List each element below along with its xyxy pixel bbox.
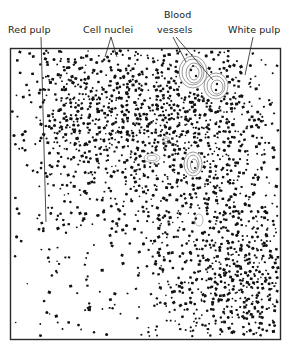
leader-red-pulp [41,37,46,222]
blood-vessel-large-1 [179,56,207,88]
tissue-illustration [0,0,295,348]
blood-vessel-medium [184,152,202,176]
blood-vessel-large-2 [204,73,228,99]
leader-white-pulp [245,37,253,75]
cell-nuclei-dots [11,49,280,337]
